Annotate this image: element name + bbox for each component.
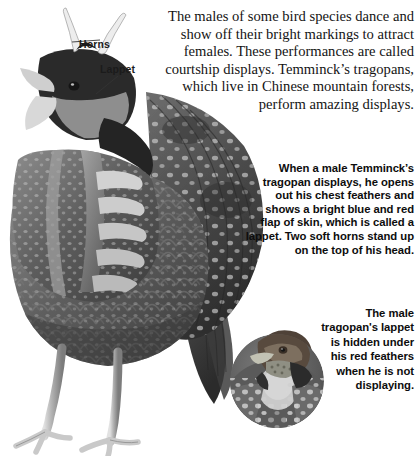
legs-and-feet [16, 348, 138, 456]
intro-paragraph: The males of some bird species dance and… [140, 8, 414, 114]
callout-label-horns: Horns [79, 38, 110, 50]
tragopan-head-photo [228, 318, 326, 436]
callout-label-lappet: Lappet [100, 63, 135, 75]
hidden-lappet-paragraph: The male tragopan's lappet is hidden und… [316, 306, 414, 392]
page-root: Horns Lappet [0, 0, 420, 456]
display-paragraph: When a male Temminck’s tragopan displays… [244, 162, 414, 257]
